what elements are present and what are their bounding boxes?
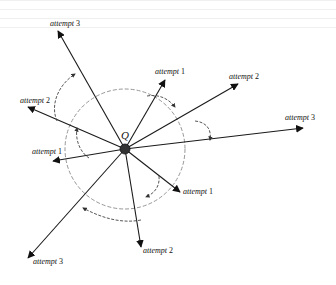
label-text: attempt — [33, 257, 59, 266]
ray-attempt-2-upper-right-arrow — [125, 84, 238, 149]
label-text: attempt — [143, 246, 169, 255]
label-number: 3 — [311, 113, 315, 122]
label-text: attempt — [155, 67, 181, 76]
attempt-rays — [28, 31, 303, 258]
label-text: attempt — [50, 19, 76, 28]
ray-attempt-1-left-arrow — [53, 149, 125, 161]
center-label-q: Q — [121, 130, 129, 141]
label-number: 3 — [76, 19, 80, 28]
rot-upper-2-to-right-3-curved-arrow — [195, 121, 210, 140]
ray-attempt-3-top-left-label: attempt 3 — [50, 20, 80, 28]
label-text: attempt — [32, 147, 58, 156]
label-number: 2 — [46, 96, 50, 105]
ray-attempt-2-upper-right-label: attempt 2 — [229, 73, 259, 81]
center-point-q — [120, 144, 130, 154]
label-number: 1 — [181, 67, 185, 76]
diagram-canvas — [0, 0, 336, 285]
ray-attempt-2-bottom-label: attempt 2 — [143, 247, 173, 255]
ray-attempt-1-upper-arrow — [125, 80, 165, 149]
ray-attempt-2-bottom-arrow — [125, 149, 141, 247]
rot-bottom-to-bottom-left-curved-arrow — [83, 208, 141, 221]
label-text: attempt — [183, 187, 209, 196]
label-number: 1 — [58, 147, 62, 156]
label-number: 2 — [255, 72, 259, 81]
label-text: attempt — [229, 72, 255, 81]
ray-attempt-3-right-arrow — [125, 128, 303, 149]
ray-attempt-1-upper-label: attempt 1 — [155, 68, 185, 76]
ray-attempt-1-lower-right-label: attempt 1 — [183, 188, 213, 196]
rot-left-2-to-top-3-curved-arrow — [54, 74, 75, 121]
ray-attempt-2-left-label: attempt 2 — [20, 97, 50, 105]
ray-attempt-1-lower-right-arrow — [125, 149, 180, 192]
ray-attempt-1-left-label: attempt 1 — [32, 148, 62, 156]
label-number: 3 — [59, 257, 63, 266]
ray-attempt-2-left-arrow — [28, 107, 125, 149]
rot-lower-right-to-bottom-curved-arrow — [146, 176, 159, 197]
label-number: 1 — [209, 187, 213, 196]
label-number: 2 — [169, 246, 173, 255]
label-text: attempt — [20, 96, 46, 105]
ray-attempt-3-bottom-left-label: attempt 3 — [33, 258, 63, 266]
ray-attempt-3-right-label: attempt 3 — [285, 114, 315, 122]
ray-attempt-3-bottom-left-arrow — [28, 149, 125, 258]
label-text: attempt — [285, 113, 311, 122]
